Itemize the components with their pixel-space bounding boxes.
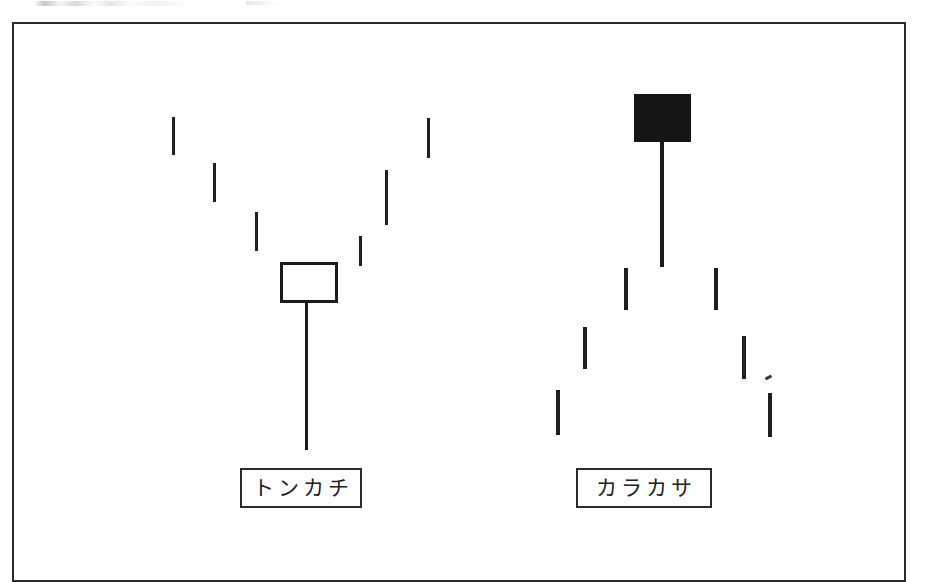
caption-label-tonkachi: トンカチ xyxy=(249,478,353,499)
caption-label-karakasa: カラカサ xyxy=(592,478,696,499)
trend-dash xyxy=(583,327,587,369)
figure-frame xyxy=(12,22,906,582)
scan-artifact-left xyxy=(34,1,224,6)
trend-dash xyxy=(768,393,772,437)
caption-box-karakasa: カラカサ xyxy=(576,468,712,508)
trend-dash xyxy=(556,390,560,435)
trend-dash xyxy=(427,118,430,158)
trend-dash xyxy=(742,336,746,379)
trend-dash xyxy=(213,163,216,202)
candle-lower-shadow xyxy=(305,302,308,450)
trend-dash xyxy=(714,268,718,310)
trend-dash xyxy=(624,268,628,310)
trend-dash xyxy=(172,117,175,155)
candle-body-filled xyxy=(634,94,691,142)
candle-body-hollow xyxy=(280,262,338,303)
candle-lower-shadow xyxy=(660,142,664,267)
scan-artifact-right xyxy=(246,1,316,5)
trend-dash xyxy=(255,212,258,251)
trend-dash xyxy=(385,170,388,225)
trend-dash xyxy=(359,236,362,266)
caption-box-tonkachi: トンカチ xyxy=(240,468,362,508)
